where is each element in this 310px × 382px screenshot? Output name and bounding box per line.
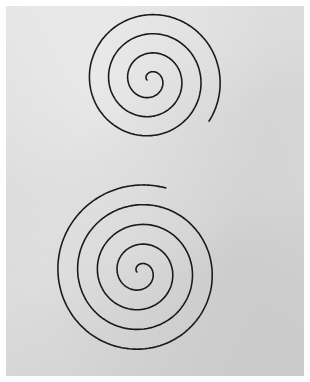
spiral-stitching [0, 0, 310, 382]
top-spiral [89, 15, 220, 136]
bottom-spiral [58, 185, 212, 349]
